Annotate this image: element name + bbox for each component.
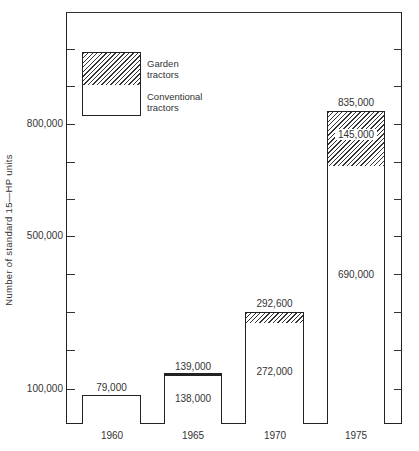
y-tick-right — [394, 124, 402, 125]
legend-garden-line2: tractors — [147, 69, 179, 80]
y-tick — [67, 312, 75, 313]
y-tick-right — [394, 274, 402, 275]
y-tick-label-800k: 800,000 — [27, 118, 63, 129]
bar-1975-conventional — [327, 166, 385, 424]
legend-garden-line1: Garden — [147, 58, 179, 69]
bar-1960-total-label: 79,000 — [82, 382, 141, 393]
bar-1970-total-label: 292,600 — [241, 298, 308, 309]
legend-swatch-garden — [82, 52, 141, 86]
x-label-1965: 1965 — [163, 430, 223, 441]
x-label-1975: 1975 — [326, 430, 386, 441]
y-tick-label-500k: 500,000 — [27, 230, 63, 241]
x-label-1960: 1960 — [82, 430, 142, 441]
y-tick-right — [394, 86, 402, 87]
y-tick-right — [394, 312, 402, 313]
y-tick — [67, 350, 75, 351]
y-tick — [67, 162, 75, 163]
y-tick — [67, 49, 75, 50]
y-tick-right — [394, 162, 402, 163]
legend-conventional-line2: tractors — [147, 102, 202, 113]
bar-1960-conventional — [82, 395, 141, 424]
y-tick-right — [394, 389, 402, 390]
y-tick — [67, 124, 75, 125]
y-axis-title: Number of standard 15—HP units — [3, 154, 14, 305]
y-tick — [67, 389, 75, 390]
y-tick — [67, 86, 75, 87]
bar-1965-conventional-label: 138,000 — [164, 393, 222, 404]
x-label-1970: 1970 — [245, 430, 305, 441]
y-tick-right — [394, 199, 402, 200]
bar-1975-garden-label: 145,000 — [335, 129, 377, 140]
y-tick-right — [394, 49, 402, 50]
bar-1970-conventional-label: 272,000 — [245, 366, 304, 377]
legend-label-conventional: Conventional tractors — [147, 91, 202, 113]
legend-label-garden: Garden tractors — [147, 58, 179, 80]
y-tick-right — [394, 236, 402, 237]
y-tick-label-100k: 100,000 — [27, 383, 63, 394]
y-tick — [67, 236, 75, 237]
y-tick-right — [394, 350, 402, 351]
bar-1975-conventional-label: 690,000 — [327, 269, 385, 280]
y-tick — [67, 274, 75, 275]
bar-1975-total-label: 835,000 — [323, 97, 389, 108]
y-tick — [67, 199, 75, 200]
legend-conventional-line1: Conventional — [147, 91, 202, 102]
legend-swatch-conventional — [82, 85, 141, 116]
bar-1965-total-label: 139,000 — [160, 361, 226, 372]
